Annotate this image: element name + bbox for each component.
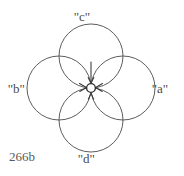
label-a: ''a'': [152, 82, 168, 95]
label-c: ''c'': [74, 10, 90, 23]
figure-container: ''c'' ''a'' ''b'' ''d'' 266b: [0, 0, 184, 176]
label-d: ''d'': [78, 152, 95, 165]
center-hub-icon: [87, 84, 96, 93]
circle-left: [27, 56, 91, 120]
center-arrows: [80, 62, 103, 99]
label-b: ''b'': [8, 82, 25, 95]
circle-bottom: [59, 88, 123, 152]
circle-right: [91, 56, 155, 120]
bottom-arrow-head: [88, 93, 93, 99]
figure-caption: 266b: [9, 150, 35, 163]
